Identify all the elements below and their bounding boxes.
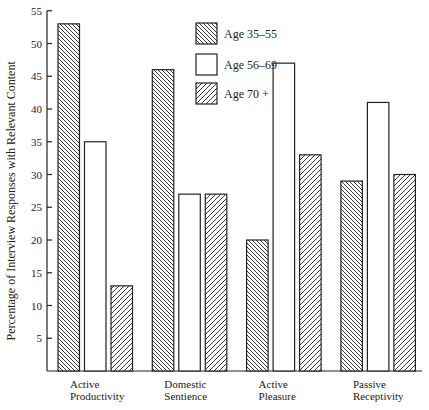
legend-label: Age 70 + bbox=[224, 87, 269, 101]
legend-swatch bbox=[196, 54, 217, 75]
category-labels: ActiveProductivityDomesticSentienceActiv… bbox=[70, 378, 404, 402]
x-category-label: Sentience bbox=[164, 390, 207, 402]
x-category-label: Receptivity bbox=[353, 390, 404, 402]
y-tick-label: 50 bbox=[31, 38, 43, 50]
bar bbox=[179, 194, 201, 371]
grouped-bar-chart: Percentage of Interview Responses with R… bbox=[0, 0, 429, 410]
y-tick-label: 30 bbox=[31, 169, 43, 181]
legend-swatch bbox=[196, 83, 217, 104]
y-tick-label: 10 bbox=[31, 300, 43, 312]
y-tick-label: 40 bbox=[31, 103, 43, 115]
bar bbox=[152, 70, 174, 371]
y-tick-label: 35 bbox=[31, 136, 43, 148]
y-tick-label: 25 bbox=[31, 201, 43, 213]
x-category-label: Passive bbox=[353, 378, 386, 390]
y-tick-label: 55 bbox=[31, 5, 43, 17]
x-category-label: Pleasure bbox=[259, 390, 296, 402]
legend-label: Age 56–69 bbox=[224, 58, 277, 72]
y-axis-label: Percentage of Interview Responses with R… bbox=[4, 61, 18, 341]
y-tick-label: 45 bbox=[31, 70, 43, 82]
x-category-label: Domestic bbox=[164, 378, 206, 390]
bar bbox=[205, 194, 227, 371]
y-tick-label: 20 bbox=[31, 234, 43, 246]
bar bbox=[367, 102, 389, 371]
bar bbox=[111, 286, 133, 371]
x-category-label: Active bbox=[70, 378, 99, 390]
bar bbox=[247, 240, 269, 371]
y-tick-label: 15 bbox=[31, 267, 43, 279]
y-axis-title: Percentage of Interview Responses with R… bbox=[4, 61, 18, 341]
bar bbox=[58, 24, 80, 371]
y-tick-label: 5 bbox=[37, 332, 43, 344]
bars bbox=[58, 24, 415, 371]
bar bbox=[85, 142, 107, 371]
x-category-label: Productivity bbox=[70, 390, 125, 402]
bar bbox=[300, 155, 322, 371]
bar bbox=[341, 181, 363, 371]
legend: Age 35–55Age 56–69Age 70 + bbox=[196, 23, 277, 104]
legend-swatch bbox=[196, 23, 217, 44]
bar bbox=[273, 63, 295, 371]
legend-label: Age 35–55 bbox=[224, 27, 277, 41]
bar bbox=[394, 175, 416, 372]
x-category-label: Active bbox=[259, 378, 288, 390]
